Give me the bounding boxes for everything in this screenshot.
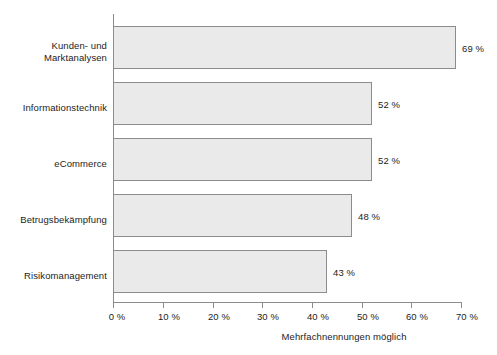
x-tick-label-70: 70 % (456, 311, 478, 322)
category-label-betrugsbekaempfung: Betrugsbekämpfung (3, 214, 107, 226)
bar-informationstechnik (113, 82, 372, 125)
x-tick-label-0: 0 % (109, 311, 126, 322)
bar-value-label: 52 % (378, 98, 400, 109)
x-tick-mark-0 (113, 303, 114, 308)
bar-value-label: 52 % (378, 154, 400, 165)
x-tick-mark-50 (362, 303, 363, 308)
plot-area: 69 % 52 % 52 % 48 % 43 % (113, 14, 461, 302)
axis-annotation: Mehrfachnennungen möglich (281, 331, 406, 342)
x-tick-mark-70 (461, 303, 462, 308)
bar-value-label: 48 % (358, 210, 380, 221)
category-label-risikomanagement: Risikomanagement (3, 270, 107, 282)
x-tick-mark-30 (262, 303, 263, 308)
x-tick-label-50: 50 % (357, 311, 379, 322)
bar-kunden-und-marktanalysen (113, 26, 456, 69)
x-tick-label-40: 40 % (307, 311, 329, 322)
category-label-kunden-und-marktanalysen: Kunden- und Marktanalysen (3, 40, 107, 64)
x-tick-label-10: 10 % (158, 311, 180, 322)
x-tick-label-60: 60 % (406, 311, 428, 322)
x-tick-label-20: 20 % (208, 311, 230, 322)
x-tick-label-30: 30 % (257, 311, 279, 322)
category-label-informationstechnik: Informationstechnik (3, 102, 107, 114)
x-tick-mark-40 (312, 303, 313, 308)
x-tick-mark-10 (163, 303, 164, 308)
bar-value-label: 69 % (462, 42, 484, 53)
bar-betrugsbekaempfung (113, 194, 352, 237)
x-tick-mark-20 (213, 303, 214, 308)
bar-chart: Kunden- und Marktanalysen Informationste… (0, 0, 497, 355)
x-axis-line (113, 302, 462, 303)
category-label-ecommerce: eCommerce (3, 158, 107, 170)
bar-ecommerce (113, 138, 372, 181)
bar-value-label: 43 % (333, 266, 355, 277)
x-tick-mark-60 (411, 303, 412, 308)
category-axis-labels: Kunden- und Marktanalysen Informationste… (0, 14, 107, 302)
bar-risikomanagement (113, 250, 327, 293)
